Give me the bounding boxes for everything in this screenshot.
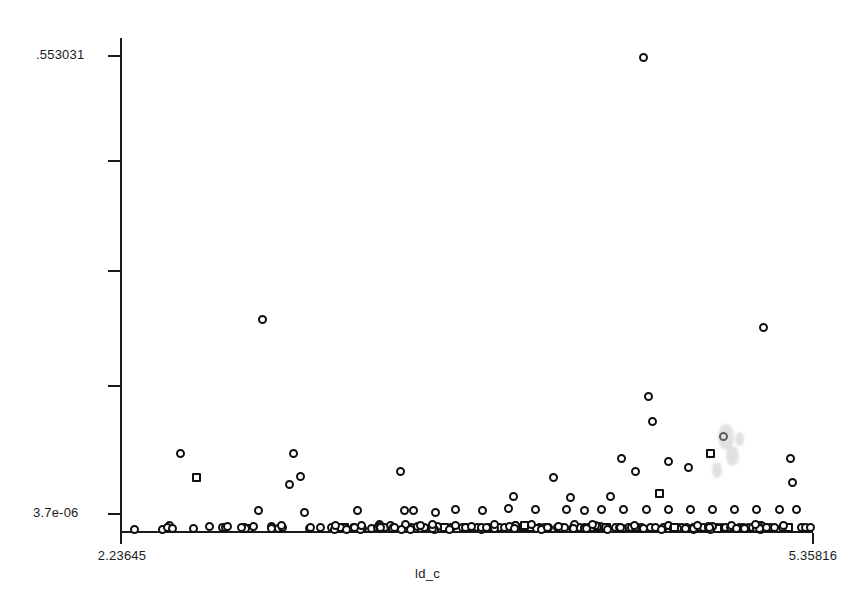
data-point: [189, 524, 198, 533]
data-point: [409, 506, 418, 515]
data-point: [205, 522, 214, 531]
data-point: [192, 473, 201, 482]
data-point: [478, 506, 487, 515]
data-point: [706, 449, 715, 458]
data-point: [431, 508, 440, 517]
data-point: [566, 493, 575, 502]
data-point: [176, 449, 185, 458]
data-point: [639, 53, 648, 62]
data-point: [606, 492, 615, 501]
data-point: [792, 505, 801, 514]
data-point: [396, 467, 405, 476]
data-point: [254, 506, 263, 515]
scan-artifact: [726, 446, 739, 466]
data-point: [686, 505, 695, 514]
data-point: [400, 506, 409, 515]
data-point: [639, 524, 648, 533]
data-point: [258, 315, 267, 324]
data-point: [376, 523, 385, 532]
data-point: [788, 478, 797, 487]
data-point: [775, 505, 784, 514]
scan-artifact: [735, 432, 744, 446]
data-point: [316, 523, 325, 532]
data-point: [642, 505, 651, 514]
data-point: [504, 504, 513, 513]
data-point: [168, 524, 177, 533]
data-point: [554, 522, 563, 531]
data-point: [416, 521, 425, 530]
data-point: [619, 505, 628, 514]
data-point: [562, 505, 571, 514]
data-point: [249, 522, 258, 531]
data-point: [752, 505, 761, 514]
data-point: [631, 467, 640, 476]
data-point: [740, 524, 749, 533]
data-point: [644, 392, 653, 401]
data-point: [300, 508, 309, 517]
data-point: [482, 523, 491, 532]
data-point: [353, 506, 362, 515]
data-point: [543, 523, 552, 532]
data-point: [806, 523, 815, 532]
data-point: [730, 505, 739, 514]
scatter-plot-figure: .553031 3.7e-06 2.23645 5.35816 ld_c: [0, 0, 855, 610]
data-points-layer: [0, 0, 855, 610]
data-point: [580, 506, 589, 515]
data-point: [451, 505, 460, 514]
data-point: [406, 525, 415, 534]
data-point: [693, 521, 702, 530]
data-point: [664, 457, 673, 466]
data-point: [451, 521, 460, 530]
data-point: [617, 454, 626, 463]
data-point: [616, 523, 625, 532]
data-point: [603, 525, 612, 534]
data-point: [549, 473, 558, 482]
data-point: [759, 323, 768, 332]
data-point: [223, 522, 232, 531]
data-point: [670, 523, 679, 532]
data-point: [130, 525, 139, 534]
data-point: [648, 417, 657, 426]
scan-artifact: [712, 462, 722, 478]
data-point: [289, 449, 298, 458]
data-point: [708, 505, 717, 514]
data-point: [786, 454, 795, 463]
data-point: [597, 505, 606, 514]
data-point: [520, 521, 529, 530]
data-point: [306, 523, 315, 532]
data-point: [509, 492, 518, 501]
data-point: [655, 489, 664, 498]
data-point: [531, 505, 540, 514]
data-point: [285, 480, 294, 489]
data-point: [296, 472, 305, 481]
data-point: [684, 463, 693, 472]
data-point: [657, 525, 666, 534]
data-point: [664, 505, 673, 514]
